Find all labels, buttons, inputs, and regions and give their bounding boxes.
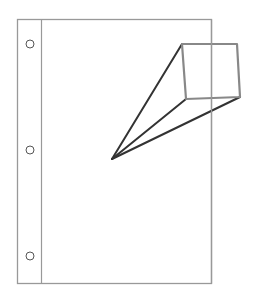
- punch-hole-icon: [26, 252, 34, 260]
- punch-hole-icon: [26, 40, 34, 48]
- binder-page-zoom-diagram: [0, 0, 261, 299]
- punch-hole-icon: [26, 146, 34, 154]
